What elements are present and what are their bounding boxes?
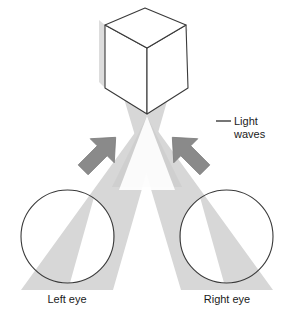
right-eye-label: Right eye — [204, 293, 250, 305]
light-waves-label-line1: Light — [234, 115, 258, 127]
diagram-canvas: Light waves Left eye Right eye — [0, 0, 290, 318]
light-waves-label-line2: waves — [233, 128, 266, 140]
binocular-vision-diagram: Light waves Left eye Right eye — [0, 0, 290, 318]
cube-shadow — [99, 20, 105, 88]
left-eye-label: Left eye — [47, 293, 86, 305]
